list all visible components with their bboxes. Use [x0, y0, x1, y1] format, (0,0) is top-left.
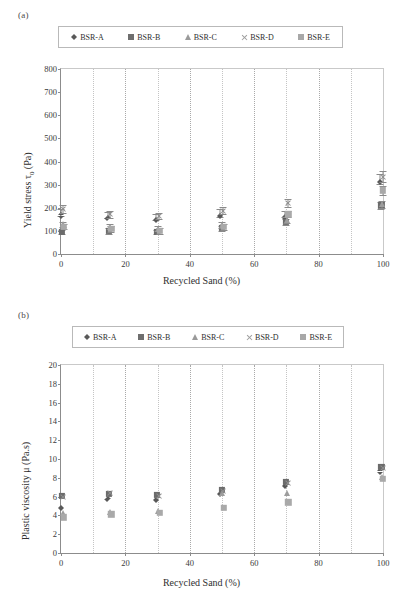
legend-item-bsr-a: BSR-A: [84, 333, 117, 342]
square-marker-icon: [138, 334, 145, 341]
legend-label: BSR-C: [194, 33, 217, 42]
legend-item-bsr-b: BSR-B: [138, 333, 170, 342]
legend-item-bsr-a: BSR-A: [71, 33, 104, 42]
y-tick-mark: [58, 403, 61, 404]
legend-item-bsr-c: BSR-C: [185, 33, 217, 42]
legend-item-bsr-e: BSR-E: [300, 333, 332, 342]
y-tick-mark: [58, 115, 61, 116]
cross-marker-icon: [246, 334, 253, 341]
legend-label: BSR-B: [147, 333, 170, 342]
data-point-bsr-e: [156, 509, 162, 515]
y-tick-mark: [58, 421, 61, 422]
data-point-bsr-e: [61, 224, 67, 230]
error-bar-cap: [379, 171, 386, 172]
x-tick-mark: [125, 553, 126, 556]
square-light-marker-icon: [298, 34, 305, 41]
gridline-vertical: [93, 69, 94, 254]
gridline-vertical: [254, 365, 255, 553]
triangle-marker-icon: [192, 334, 199, 341]
x-tick-label: 60: [250, 259, 259, 269]
error-bar-cap: [379, 182, 386, 183]
data-point-bsr-a: [58, 502, 64, 508]
y-tick-label: 6: [27, 492, 57, 502]
x-tick-label: 20: [121, 558, 130, 568]
legend-label: BSR-E: [309, 333, 332, 342]
panel-label-b: (b): [18, 310, 29, 320]
error-bar-cap: [60, 213, 67, 214]
data-point-bsr-e: [379, 476, 385, 482]
error-bar-cap: [284, 207, 291, 208]
y-tick-label: 18: [27, 379, 57, 389]
y-tick-label: 500: [27, 133, 57, 143]
legend-a: BSR-ABSR-BBSR-CBSR-DBSR-E: [58, 26, 343, 48]
y-tick-mark: [58, 138, 61, 139]
plot-area-b: 02468101214161820020406080100: [60, 364, 384, 554]
y-axis-title-a: Yield stress τ0 (Pa): [22, 153, 35, 228]
y-tick-mark: [58, 92, 61, 93]
data-point-bsr-d: [220, 207, 227, 214]
legend-label: BSR-D: [250, 33, 274, 42]
y-tick-label: 700: [27, 87, 57, 97]
data-point-bsr-d: [155, 212, 162, 219]
y-tick-mark: [58, 69, 61, 70]
figure-page: (a) BSR-ABSR-BBSR-CBSR-DBSR-E 0100200300…: [0, 0, 403, 604]
error-bar-cap: [285, 217, 292, 218]
x-tick-label: 80: [314, 259, 323, 269]
gridline-vertical: [351, 69, 352, 254]
legend-item-bsr-c: BSR-C: [192, 333, 224, 342]
y-tick-mark: [58, 459, 61, 460]
x-tick-mark: [61, 553, 62, 556]
data-point-bsr-d: [155, 492, 162, 499]
x-tick-label: 40: [186, 259, 195, 269]
gridline-vertical: [254, 69, 255, 254]
y-tick-label: 8: [27, 473, 57, 483]
cross-marker-icon: [241, 34, 248, 41]
gridline-vertical: [222, 365, 223, 553]
x-tick-mark: [319, 553, 320, 556]
legend-b: BSR-ABSR-BBSR-CBSR-DBSR-E: [72, 326, 344, 348]
gridline-vertical: [190, 365, 191, 553]
data-point-bsr-e: [285, 499, 291, 505]
x-axis-title-a: Recycled Sand (%): [0, 275, 403, 286]
data-point-bsr-d: [284, 480, 291, 487]
x-tick-label: 100: [377, 558, 390, 568]
x-tick-mark: [254, 254, 255, 257]
chart-panel-a: (a) BSR-ABSR-BBSR-CBSR-DBSR-E 0100200300…: [0, 0, 403, 300]
y-axis-title-b: Plastic viscosity μ (Pa.s): [20, 442, 31, 540]
y-tick-label: 2: [27, 529, 57, 539]
y-tick-mark: [58, 534, 61, 535]
y-tick-mark: [58, 478, 61, 479]
y-tick-label: 14: [27, 416, 57, 426]
error-bar-cap: [283, 223, 290, 224]
x-tick-mark: [383, 553, 384, 556]
x-tick-mark: [190, 254, 191, 257]
data-point-bsr-e: [379, 187, 385, 193]
diamond-marker-icon: [84, 334, 91, 341]
legend-item-bsr-b: BSR-B: [128, 33, 160, 42]
y-tick-mark: [58, 365, 61, 366]
y-tick-label: 16: [27, 398, 57, 408]
diamond-marker-icon: [71, 34, 78, 41]
x-tick-mark: [125, 254, 126, 257]
error-bar-cap: [379, 208, 386, 209]
legend-label: BSR-E: [307, 33, 330, 42]
data-point-bsr-e: [156, 228, 162, 234]
gridline-vertical: [125, 69, 126, 254]
x-tick-mark: [319, 254, 320, 257]
x-tick-label: 60: [250, 558, 259, 568]
y-tick-label: 10: [27, 454, 57, 464]
chart-panel-b: (b) BSR-ABSR-BBSR-CBSR-DBSR-E 0246810121…: [0, 300, 403, 604]
gridline-vertical: [190, 69, 191, 254]
gridline-vertical: [158, 365, 159, 553]
x-tick-label: 20: [121, 259, 130, 269]
legend-label: BSR-A: [80, 33, 104, 42]
legend-label: BSR-C: [201, 333, 224, 342]
data-point-bsr-c: [379, 201, 385, 207]
error-bar-cap: [220, 214, 227, 215]
y-tick-label: 800: [27, 64, 57, 74]
gridline-vertical: [351, 365, 352, 553]
gridline-vertical: [125, 365, 126, 553]
y-tick-mark: [58, 185, 61, 186]
square-light-marker-icon: [300, 334, 307, 341]
x-tick-mark: [61, 254, 62, 257]
